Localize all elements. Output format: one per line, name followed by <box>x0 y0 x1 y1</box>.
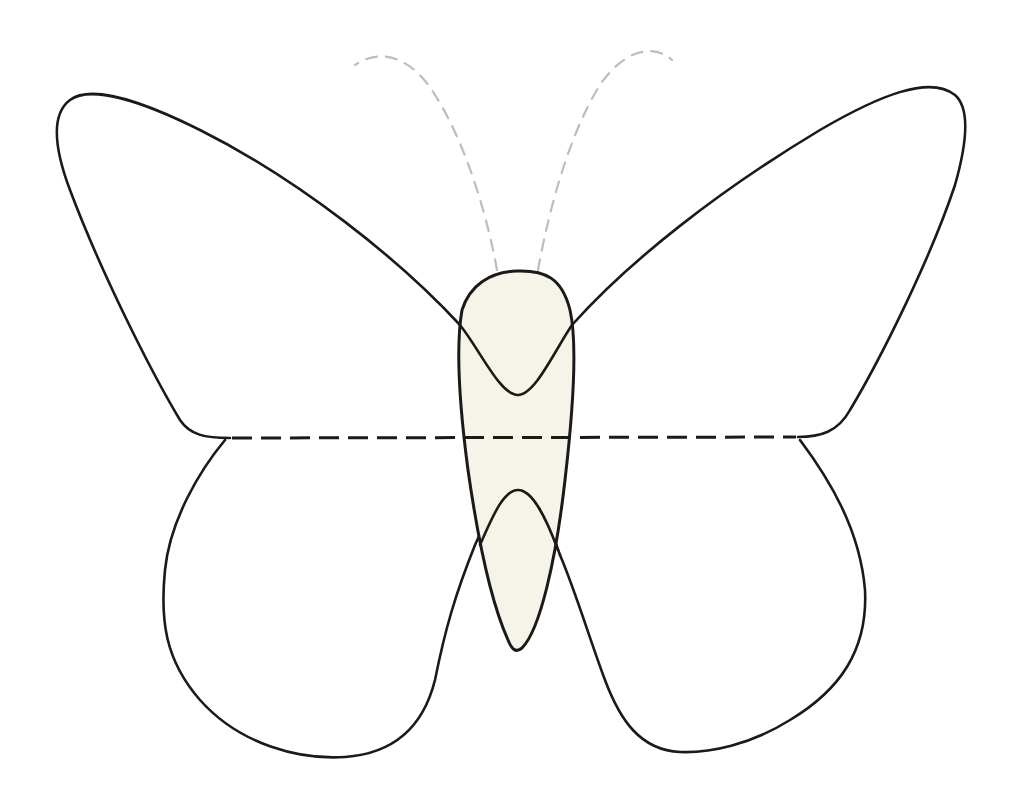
left-forewing <box>57 94 460 438</box>
body <box>459 271 574 650</box>
right-antenna <box>538 51 672 270</box>
left-antenna <box>355 56 497 270</box>
butterfly-diagram <box>0 0 1011 810</box>
right-forewing <box>572 87 965 437</box>
right-hindwing <box>560 440 865 752</box>
